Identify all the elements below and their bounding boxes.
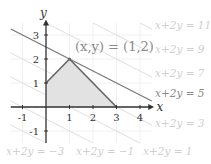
x-tick-label: -1 — [18, 112, 28, 123]
x-tick-label: 3 — [113, 112, 119, 123]
level-line-label: x+2y = −3 — [6, 145, 65, 157]
labels: x+2y = −3x+2y = −1x+2y = 1x+2y = 3x+2y =… — [6, 6, 211, 157]
y-axis-arrow-icon — [43, 19, 49, 25]
level-line-label: x+2y = 11 — [155, 19, 211, 31]
y-tick-label: 3 — [33, 30, 39, 41]
x-tick-label: 1 — [66, 112, 72, 123]
level-line-label: x+2y = 9 — [155, 43, 205, 55]
x-axis-label: x — [156, 100, 163, 114]
x-tick-label: 4 — [137, 112, 143, 123]
level-line-label: x+2y = −1 — [76, 145, 134, 157]
y-tick-label: 1 — [33, 78, 39, 89]
y-axis-label: y — [39, 6, 47, 20]
level-line — [140, 23, 152, 29]
level-line-label: x+2y = 7 — [155, 67, 205, 79]
lp-diagram: x+2y = −3x+2y = −1x+2y = 1x+2y = 3x+2y =… — [0, 0, 211, 164]
diagram-canvas: x+2y = −3x+2y = −1x+2y = 1x+2y = 3x+2y =… — [0, 0, 211, 164]
y-tick-label: -1 — [29, 126, 39, 137]
optimum-label: (x,y) = (1,2) — [75, 39, 154, 54]
level-line-label: x+2y = 5 — [155, 87, 205, 99]
y-tick-label: 2 — [33, 54, 39, 65]
x-axis-arrow-icon — [148, 104, 154, 110]
optimum-point — [68, 58, 71, 61]
level-line-label: x+2y = 3 — [155, 117, 205, 129]
x-tick-label: 2 — [90, 112, 96, 123]
level-line-label: x+2y = 1 — [143, 145, 193, 157]
